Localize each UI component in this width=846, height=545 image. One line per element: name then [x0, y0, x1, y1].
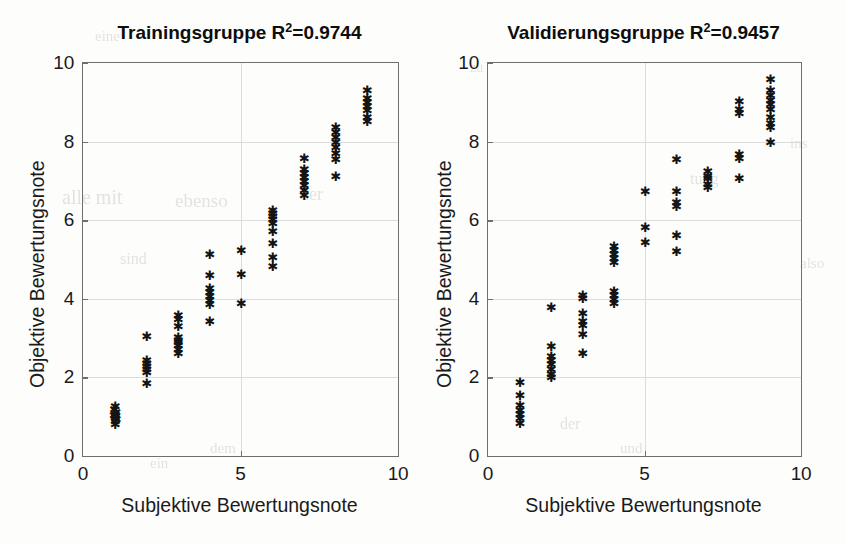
xaxis-title-validation: Subjektive Bewertungsnote [487, 494, 800, 517]
ytick-label: 0 [469, 445, 479, 467]
scatter-point [110, 417, 119, 426]
panel-validation: Validierungsgruppe R2=0.9457 02468100510… [423, 0, 846, 545]
scatter-point [205, 317, 214, 326]
ytick-mark [83, 299, 88, 300]
scatter-point [299, 186, 308, 195]
scatter-point [142, 356, 151, 365]
ytick-mark [83, 63, 88, 64]
scatter-point [205, 300, 214, 309]
scatter-point [109, 411, 118, 420]
scatter-point [734, 154, 743, 163]
scatter-point [765, 96, 774, 105]
ytick-label: 2 [469, 366, 479, 388]
gridline-vertical [645, 63, 646, 456]
xtick-label: 0 [483, 463, 493, 485]
scatter-point [142, 379, 151, 388]
xtick-mark [645, 451, 646, 456]
scatter-point [173, 333, 182, 342]
xtick-label: 0 [78, 463, 88, 485]
scatter-point [515, 419, 524, 428]
scatter-point [205, 288, 214, 297]
scatter-point [205, 292, 214, 301]
scatter-point [515, 414, 524, 423]
panel-title-validation: Validierungsgruppe R2=0.9457 [487, 22, 800, 44]
ytick-mark [488, 142, 493, 143]
scatter-point [205, 284, 214, 293]
scatter-point [765, 86, 774, 95]
scatter-point [111, 408, 120, 417]
scatter-point [577, 317, 586, 326]
scatter-point [362, 106, 371, 115]
scatter-point [173, 338, 182, 347]
scatter-point [734, 105, 743, 114]
ytick-label: 6 [64, 209, 74, 231]
scatter-point [268, 253, 277, 262]
scatter-point [173, 345, 182, 354]
scatter-point [609, 258, 618, 267]
scatter-point [268, 206, 277, 215]
scatter-point [703, 167, 712, 176]
scatter-point [299, 181, 308, 190]
ytick-mark [488, 456, 493, 457]
scatter-point [515, 410, 524, 419]
scatter-point [546, 352, 555, 361]
scatter-point [609, 299, 618, 308]
scatter-point [609, 242, 618, 251]
scatter-point [765, 91, 774, 100]
yaxis-title-validation: Objektive Bewertungsnote [433, 160, 456, 388]
scatter-point [703, 172, 712, 181]
scatter-point [671, 187, 680, 196]
scatter-point [577, 321, 586, 330]
xtick-label: 5 [235, 463, 245, 485]
scatter-point [142, 332, 151, 341]
scatter-point [362, 113, 371, 122]
scatter-point [546, 360, 555, 369]
scatter-point [205, 296, 214, 305]
scatter-point [299, 154, 308, 163]
yaxis-title-training: Objektive Bewertungsnote [26, 160, 49, 388]
scatter-point [331, 128, 340, 137]
xtick-label: 5 [639, 463, 649, 485]
scatter-point [110, 412, 119, 421]
scatter-point [609, 246, 618, 255]
scatter-point [671, 198, 680, 207]
scatter-point [110, 414, 119, 423]
scatter-point [109, 405, 118, 414]
scatter-point [331, 149, 340, 158]
xtick-label: 10 [791, 463, 812, 485]
scatter-point [142, 368, 151, 377]
scatter-point [299, 165, 308, 174]
scatter-point [515, 391, 524, 400]
scatter-point [734, 97, 743, 106]
scatter-point [142, 362, 151, 371]
scatter-point [671, 247, 680, 256]
scatter-point [577, 309, 586, 318]
ytick-label: 10 [458, 52, 479, 74]
scatter-point [173, 341, 182, 350]
scatter-point [299, 173, 308, 182]
scatter-point [765, 123, 774, 132]
scatter-point [515, 401, 524, 410]
scatter-point [515, 406, 524, 415]
scatter-point [331, 155, 340, 164]
scatter-point [110, 420, 119, 429]
scatter-point [765, 105, 774, 114]
scatter-point [765, 75, 774, 84]
scatter-point [268, 209, 277, 218]
scatter-point [671, 202, 680, 211]
ytick-label: 8 [64, 131, 74, 153]
scatter-point [546, 303, 555, 312]
scatter-point [110, 410, 119, 419]
ytick-mark [488, 63, 493, 64]
scatter-point [142, 365, 151, 374]
panel-training: Trainingsgruppe R2=0.9744 02468100510 Su… [0, 0, 423, 545]
gridline-vertical [241, 63, 242, 456]
scatter-point [703, 183, 712, 192]
xaxis-title-training: Subjektive Bewertungsnote [82, 494, 397, 517]
figure-two-panel-scatter: Trainingsgruppe R2=0.9744 02468100510 Su… [0, 0, 846, 545]
scatter-point [268, 262, 277, 271]
scatter-point [765, 100, 774, 109]
plot-area-training: 02468100510 [82, 62, 399, 457]
scatter-point [299, 177, 308, 186]
scatter-point [703, 174, 712, 183]
